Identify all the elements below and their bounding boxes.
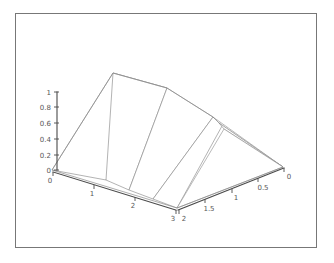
x-label-0: 0 xyxy=(48,177,52,185)
plot-page: 1 0.8 0.6 0.4 0.2 0 0 1 2 3 2 1.5 1 0.5 … xyxy=(0,0,334,263)
y-label-1.5: 1.5 xyxy=(203,205,214,213)
x-label-1: 1 xyxy=(90,190,94,198)
y-label-0.5: 0.5 xyxy=(257,184,268,192)
z-label-1: 1 xyxy=(47,89,51,97)
y-label-2: 2 xyxy=(182,215,186,223)
z-label-0.2: 0.2 xyxy=(40,152,51,160)
surface-plot-3d: 1 0.8 0.6 0.4 0.2 0 0 1 2 3 2 1.5 1 0.5 … xyxy=(0,0,334,263)
x-label-3: 3 xyxy=(171,215,175,223)
z-label-0: 0 xyxy=(47,167,51,175)
y-label-0: 0 xyxy=(287,173,291,181)
x-label-2: 2 xyxy=(131,202,135,210)
z-label-0.8: 0.8 xyxy=(40,104,51,112)
z-label-0.4: 0.4 xyxy=(40,136,52,144)
z-axis-tick-labels: 1 0.8 0.6 0.4 0.2 0 xyxy=(40,89,52,175)
z-label-0.6: 0.6 xyxy=(40,120,52,128)
y-label-1: 1 xyxy=(234,194,238,202)
